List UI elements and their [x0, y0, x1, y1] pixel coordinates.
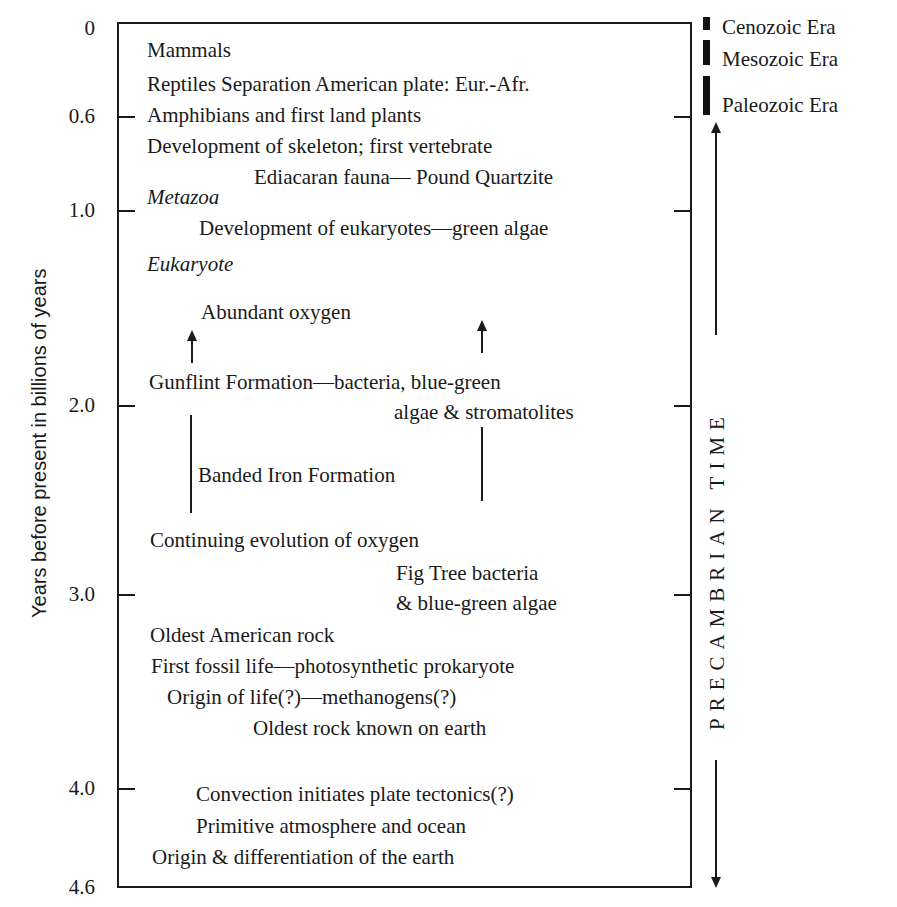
event-eukaryotes-development: Development of eukaryotes—green algae	[199, 218, 548, 239]
y-tick-label-4-6: 4.6	[35, 875, 95, 900]
event-banded-iron: Banded Iron Formation	[198, 465, 395, 486]
event-convection: Convection initiates plate tectonics(?)	[196, 784, 514, 805]
event-gunflint-line2: algae & stromatolites	[394, 402, 574, 423]
event-metazoa: Metazoa	[147, 187, 219, 208]
arrow-shaft	[481, 328, 483, 353]
event-mammals: Mammals	[147, 40, 231, 61]
event-origin-earth: Origin & differentiation of the earth	[152, 847, 454, 868]
event-continuing-oxygen: Continuing evolution of oxygen	[150, 530, 419, 551]
event-gunflint-line1: Gunflint Formation—bacteria, blue-green	[149, 372, 501, 393]
tick-left-3-0	[117, 594, 135, 596]
precambrian-line-top	[715, 130, 717, 335]
event-origin-of-life: Origin of life(?)—methanogens(?)	[167, 687, 456, 708]
precambrian-line-bottom	[715, 760, 717, 878]
tick-right-4-0	[674, 788, 692, 790]
banded-iron-right-line	[481, 427, 483, 501]
event-fig-tree-line2: & blue-green algae	[396, 593, 557, 614]
event-ediacaran: Ediacaran fauna— Pound Quartzite	[254, 167, 553, 188]
y-axis-title: Years before present in billions of year…	[28, 269, 51, 618]
y-tick-label-0-6: 0.6	[35, 104, 95, 129]
event-abundant-oxygen: Abundant oxygen	[201, 302, 351, 323]
y-tick-label-3-0: 3.0	[35, 582, 95, 607]
banded-iron-left-line	[190, 415, 192, 513]
tick-left-1-0	[117, 210, 135, 212]
event-oldest-rock: Oldest rock known on earth	[253, 718, 486, 739]
tick-right-0-6	[674, 116, 692, 118]
era-bar-mesozoic	[703, 40, 710, 65]
tick-right-1-0	[674, 210, 692, 212]
era-label-cenozoic: Cenozoic Era	[722, 17, 836, 38]
event-reptiles: Reptiles Separation American plate: Eur.…	[147, 74, 530, 95]
era-label-mesozoic: Mesozoic Era	[722, 49, 838, 70]
era-bar-cenozoic	[703, 17, 710, 30]
y-tick-label-4-0: 4.0	[35, 776, 95, 801]
y-tick-label-1-0: 1.0	[35, 198, 95, 223]
event-oldest-american-rock: Oldest American rock	[150, 625, 334, 646]
arrow-shaft	[191, 338, 193, 363]
tick-left-2-0	[117, 405, 135, 407]
event-fig-tree-line1: Fig Tree bacteria	[396, 563, 538, 584]
event-skeleton: Development of skeleton; first vertebrat…	[147, 136, 492, 157]
event-primitive-atmosphere: Primitive atmosphere and ocean	[196, 816, 466, 837]
y-tick-label-2-0: 2.0	[35, 393, 95, 418]
tick-right-3-0	[674, 594, 692, 596]
event-amphibians: Amphibians and first land plants	[147, 105, 421, 126]
era-label-paleozoic: Paleozoic Era	[722, 95, 838, 116]
tick-left-0-6	[117, 116, 135, 118]
event-eukaryote: Eukaryote	[147, 254, 233, 275]
precambrian-arrow-down-icon	[711, 877, 721, 888]
tick-left-4-0	[117, 788, 135, 790]
y-tick-label-0: 0	[35, 16, 95, 41]
precambrian-label: PRECAMBRIAN TIME	[705, 410, 730, 730]
tick-right-2-0	[674, 405, 692, 407]
event-first-fossil-life: First fossil life—photosynthetic prokary…	[151, 656, 514, 677]
era-bar-paleozoic	[703, 76, 710, 115]
